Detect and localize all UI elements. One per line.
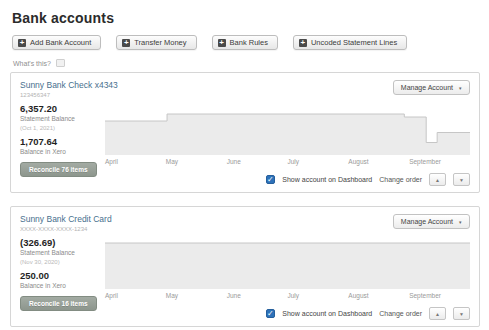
show-on-dashboard-checkbox[interactable]: ✓ — [266, 175, 275, 184]
month-label: July — [287, 292, 348, 299]
month-label: August — [348, 158, 409, 165]
bank-account-panel-check: Sunny Bank Check x4343 123456347 Manage … — [10, 72, 480, 193]
whats-this-link[interactable]: What's this? — [13, 60, 51, 67]
month-label: April — [105, 292, 166, 299]
page-title: Bank accounts — [12, 10, 489, 26]
transfer-money-label: Transfer Money — [134, 38, 186, 47]
month-label: May — [166, 158, 227, 165]
month-axis: April May June July August September — [105, 158, 470, 165]
statement-balance-block: (326.69) Statement Balance (Nov 30, 2020… — [20, 237, 105, 265]
xero-balance-block: 250.00 Balance in Xero — [20, 270, 105, 289]
panel-footer: ✓ Show account on Dashboard Change order… — [266, 307, 470, 320]
add-bank-account-button[interactable]: + Add Bank Account — [12, 35, 101, 50]
uncoded-statement-lines-button[interactable]: + Uncoded Statement Lines — [293, 35, 407, 50]
month-label: May — [166, 292, 227, 299]
month-axis: April May June July August September — [105, 292, 470, 299]
reconcile-button[interactable]: Reconcile 76 items — [20, 162, 97, 177]
statement-balance-value: (326.69) — [20, 237, 105, 248]
arrow-up-icon: ▲ — [435, 311, 440, 317]
month-label: September — [409, 292, 470, 299]
balance-stats: 6,357.20 Statement Balance (Oct 1, 2021)… — [20, 103, 105, 177]
xero-balance-label: Balance in Xero — [20, 148, 105, 155]
month-label: July — [287, 158, 348, 165]
xero-balance-value: 250.00 — [20, 270, 105, 281]
statement-balance-date: (Nov 30, 2020) — [20, 259, 105, 265]
arrow-down-icon: ▼ — [459, 311, 464, 317]
manage-account-button[interactable]: Manage Account ▾ — [393, 80, 470, 95]
balance-stats: (326.69) Statement Balance (Nov 30, 2020… — [20, 237, 105, 311]
arrow-down-icon: ▼ — [459, 177, 464, 183]
add-bank-account-label: Add Bank Account — [30, 38, 91, 47]
xero-balance-value: 1,707.64 — [20, 136, 105, 147]
manage-account-button[interactable]: Manage Account ▾ — [393, 214, 470, 229]
balance-sparkline-chart — [105, 239, 470, 289]
balance-chart: April May June July August September — [105, 239, 470, 311]
month-label: April — [105, 158, 166, 165]
manage-account-label: Manage Account — [401, 84, 453, 91]
xero-balance-label: Balance in Xero — [20, 282, 105, 289]
show-on-dashboard-checkbox[interactable]: ✓ — [266, 309, 275, 318]
month-label: June — [227, 292, 288, 299]
statement-balance-label: Statement Balance — [20, 249, 105, 256]
toolbar: + Add Bank Account + Transfer Money + Ba… — [12, 35, 489, 50]
transfer-money-button[interactable]: + Transfer Money — [116, 35, 196, 50]
bank-account-panel-credit-card: Sunny Bank Credit Card XXXX-XXXX-XXXX-12… — [10, 206, 480, 327]
plus-icon: + — [218, 39, 226, 47]
statement-balance-value: 6,357.20 — [20, 103, 105, 114]
change-order-label: Change order — [379, 310, 422, 317]
balance-sparkline-chart — [105, 105, 470, 155]
month-label: June — [227, 158, 288, 165]
plus-icon: + — [18, 39, 26, 47]
chevron-down-icon: ▾ — [459, 219, 462, 225]
uncoded-statement-lines-label: Uncoded Statement Lines — [311, 38, 397, 47]
help-icon[interactable] — [56, 59, 65, 67]
move-down-button[interactable]: ▼ — [453, 173, 470, 186]
xero-balance-block: 1,707.64 Balance in Xero — [20, 136, 105, 155]
bank-rules-label: Bank Rules — [230, 38, 268, 47]
month-label: September — [409, 158, 470, 165]
move-up-button[interactable]: ▲ — [429, 307, 446, 320]
bank-rules-button[interactable]: + Bank Rules — [212, 35, 278, 50]
plus-icon: + — [122, 39, 130, 47]
change-order-label: Change order — [379, 176, 422, 183]
panel-body: (326.69) Statement Balance (Nov 30, 2020… — [20, 237, 470, 311]
whats-this-row: What's this? — [13, 59, 489, 67]
statement-balance-block: 6,357.20 Statement Balance (Oct 1, 2021) — [20, 103, 105, 131]
month-label: August — [348, 292, 409, 299]
show-on-dashboard-label: Show account on Dashboard — [282, 176, 372, 183]
chevron-down-icon: ▾ — [459, 85, 462, 91]
reconcile-button[interactable]: Reconcile 16 items — [20, 296, 97, 311]
move-up-button[interactable]: ▲ — [429, 173, 446, 186]
statement-balance-date: (Oct 1, 2021) — [20, 125, 105, 131]
panel-footer: ✓ Show account on Dashboard Change order… — [266, 173, 470, 186]
balance-chart: April May June July August September — [105, 105, 470, 177]
statement-balance-label: Statement Balance — [20, 115, 105, 122]
show-on-dashboard-label: Show account on Dashboard — [282, 310, 372, 317]
manage-account-label: Manage Account — [401, 218, 453, 225]
move-down-button[interactable]: ▼ — [453, 307, 470, 320]
panel-body: 6,357.20 Statement Balance (Oct 1, 2021)… — [20, 103, 470, 177]
arrow-up-icon: ▲ — [435, 177, 440, 183]
plus-icon: + — [299, 39, 307, 47]
